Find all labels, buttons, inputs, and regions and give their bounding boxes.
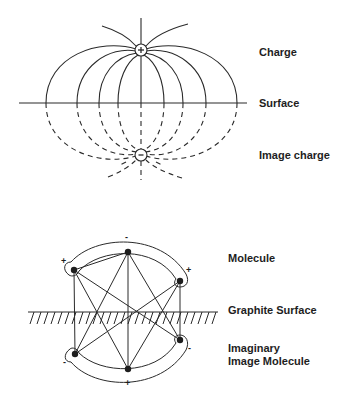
label-imaginary: Imaginary: [228, 342, 280, 355]
image-molecule-outline: [65, 335, 187, 382]
graphite-hatching: [30, 312, 216, 324]
sign-right: +: [186, 264, 191, 277]
image-atom-left: [72, 351, 78, 357]
image-atom-right: [177, 337, 183, 343]
sign-top: -: [125, 231, 128, 244]
label-molecule: Molecule: [228, 252, 275, 265]
atom-right: [177, 278, 183, 284]
image-sign-right: -: [188, 342, 191, 355]
image-sign-bottom: +: [125, 377, 130, 390]
label-graphite-surface: Graphite Surface: [228, 304, 317, 317]
label-surface: Surface: [259, 97, 299, 110]
diagram-canvas: [0, 0, 339, 397]
label-charge: Charge: [259, 46, 297, 59]
field-lines-dashed: [46, 103, 237, 180]
image-atom-bottom: [125, 366, 131, 372]
label-image-charge: Image charge: [259, 149, 330, 162]
interaction-lines: [74, 252, 180, 369]
label-image-molecule: Image Molecule: [228, 355, 310, 368]
molecule-outline: [65, 242, 188, 287]
atom-left: [71, 267, 77, 273]
field-lines-solid: [46, 18, 237, 103]
sign-left: +: [61, 255, 66, 268]
image-sign-left: -: [63, 356, 66, 369]
atom-top: [125, 249, 131, 255]
